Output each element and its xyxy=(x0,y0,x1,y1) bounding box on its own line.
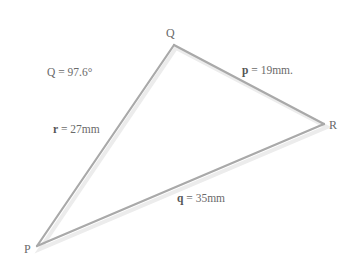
vertex-label-p: P xyxy=(24,242,31,256)
side-r-label: r = 27mm xyxy=(53,123,100,135)
side-p-value: = 19mm. xyxy=(248,64,293,76)
vertex-label-r: R xyxy=(329,118,337,132)
side-q-label: q = 35mm xyxy=(177,192,225,205)
angle-value: = 97.6° xyxy=(55,66,92,78)
side-r-value: = 27mm xyxy=(58,123,100,135)
triangle-shadow xyxy=(40,48,327,249)
vertex-label-q: Q xyxy=(166,26,175,40)
side-q xyxy=(37,124,324,246)
triangle-diagram: Q R P Q = 97.6° p = 19mm. r = 27mm q = 3… xyxy=(0,0,353,268)
angle-q-label: Q = 97.6° xyxy=(47,66,93,78)
side-q-value: = 35mm xyxy=(183,192,225,204)
side-p xyxy=(174,45,324,124)
side-p-label: p = 19mm. xyxy=(242,64,293,77)
